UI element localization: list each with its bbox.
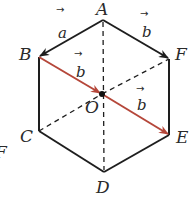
vector-label-b-bo: b: [76, 63, 86, 81]
vector-a: [40, 20, 103, 56]
vector-label-b-oe: b: [137, 96, 147, 114]
arrow-b-af: →: [140, 8, 148, 19]
label-D: D: [95, 177, 110, 197]
vector-b-af: [103, 20, 168, 58]
label-F-cropped: F: [0, 142, 8, 162]
vector-b-oe: [102, 94, 168, 134]
center-point: [99, 91, 105, 97]
label-C: C: [20, 126, 33, 146]
label-F: F: [174, 44, 188, 64]
label-A: A: [94, 0, 108, 19]
vector-b-bo: [39, 57, 100, 93]
arrow-b-bo: →: [74, 48, 82, 59]
arrow-a: →: [56, 4, 64, 15]
label-E: E: [175, 127, 189, 147]
arrow-b-oe: →: [136, 83, 144, 94]
label-B: B: [18, 44, 32, 64]
vector-label-a: a: [58, 24, 67, 42]
vector-label-b-af: b: [142, 23, 152, 41]
hexagon-diagram: A B C D E F O F → a → b → b → b: [0, 0, 196, 221]
label-O: O: [85, 97, 99, 117]
